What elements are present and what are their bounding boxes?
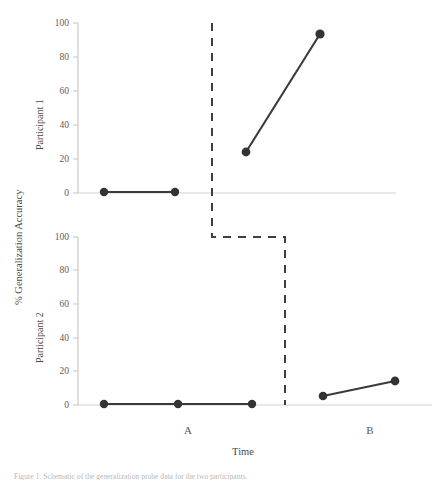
panel-2-point-a3 <box>248 400 256 408</box>
x-category-label-b: B <box>366 424 373 436</box>
phase-change-line <box>212 23 285 405</box>
panel-2-ytick-0: 0 <box>64 400 69 410</box>
panel-2-series-b-line <box>323 381 395 396</box>
panel-1-ytick-60: 60 <box>60 86 70 96</box>
chart-svg: % Generalization Accuracy Participant 1 … <box>0 0 447 480</box>
panel-1-series-b-line <box>246 34 320 152</box>
panel-2-ytick-100: 100 <box>55 232 70 242</box>
panel-participant-1: Participant 1 0 20 40 60 80 100 <box>34 18 396 198</box>
panel-1-point-a1 <box>100 188 108 196</box>
panel-1-ytick-20: 20 <box>60 154 70 164</box>
panel-1-point-b2 <box>315 29 324 38</box>
panel-2-y-ticks <box>73 237 78 405</box>
panel-2-label: Participant 2 <box>34 312 45 363</box>
panel-participant-2: Participant 2 0 20 40 60 80 100 <box>34 232 432 410</box>
panel-1-ytick-80: 80 <box>60 52 70 62</box>
panel-1-label: Participant 1 <box>34 99 45 150</box>
panel-2-point-a2 <box>174 400 182 408</box>
panel-2-ytick-40: 40 <box>60 333 70 343</box>
panel-1-ytick-40: 40 <box>60 120 70 130</box>
panel-1-ytick-100: 100 <box>55 18 70 28</box>
panel-1-point-a2 <box>171 188 179 196</box>
panel-2-ytick-20: 20 <box>60 366 70 376</box>
panel-2-ytick-80: 80 <box>60 265 70 275</box>
panel-1-point-b1 <box>242 148 251 157</box>
y-axis-title: % Generalization Accuracy <box>13 189 24 305</box>
panel-2-point-a1 <box>100 400 108 408</box>
panel-2-point-b1 <box>319 392 328 401</box>
x-category-label-a: A <box>184 424 192 436</box>
figure-container: % Generalization Accuracy Participant 1 … <box>0 0 447 480</box>
panel-1-y-ticks <box>73 23 78 193</box>
panel-2-ytick-60: 60 <box>60 299 70 309</box>
x-axis-title: Time <box>232 446 254 457</box>
panel-2-point-b2 <box>391 377 400 386</box>
panel-1-ytick-0: 0 <box>64 188 69 198</box>
figure-caption: Figure 1. Schematic of the generalizatio… <box>14 472 438 480</box>
